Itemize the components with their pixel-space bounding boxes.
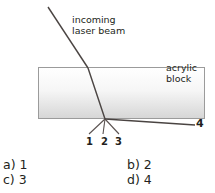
answer-option-d[interactable]: d) 4 xyxy=(127,172,152,187)
answer-option-b[interactable]: b) 2 xyxy=(127,157,152,172)
answer-option-a[interactable]: a) 1 xyxy=(3,157,27,172)
ray-4-line xyxy=(105,119,195,125)
ray-3-line xyxy=(105,119,119,134)
answer-option-c[interactable]: c) 3 xyxy=(3,172,27,187)
acrylic-block-label: acrylic block xyxy=(166,62,197,84)
ray-number-2: 2 xyxy=(101,136,108,147)
ray-1-line xyxy=(89,119,105,134)
ray-number-4: 4 xyxy=(196,118,204,131)
incoming-beam-label: incoming laser beam xyxy=(72,14,125,36)
ray-number-3: 3 xyxy=(115,136,122,147)
ray-number-1: 1 xyxy=(86,136,93,147)
